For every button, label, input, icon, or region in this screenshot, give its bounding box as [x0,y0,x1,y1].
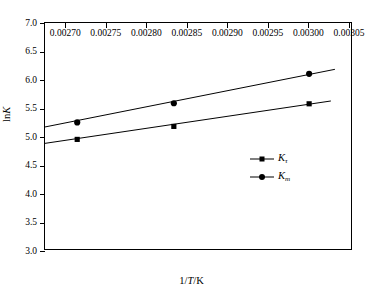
legend-label-subscript: τ [285,157,288,165]
x-axis-title: 1/T/K [0,276,383,287]
legend-line-sample [250,154,274,164]
legend-label-base: K [278,170,285,181]
legend-item[interactable]: Kτ [216,150,304,168]
y-tick-label: 3.5 [25,218,37,228]
legend-line-sample [250,172,274,182]
y-tick-label: 5.5 [25,104,37,114]
y-tick-label: 3.0 [25,247,37,257]
legend-marker-circle-icon [259,174,265,180]
x-axis-title-suffix: /K [193,275,204,286]
chart-root: 3.03.54.04.55.05.56.06.57.0 0.002700.002… [0,0,383,305]
fit-line [45,69,335,127]
y-tick-mark: 3.0 [40,251,45,252]
legend-label-subscript: m [285,175,290,183]
plot-area: 3.03.54.04.55.05.56.06.57.0 0.002700.002… [44,22,352,250]
data-layer [45,23,351,249]
fit-line [45,101,331,143]
legend-label: Km [278,171,304,183]
y-tick-label: 6.5 [25,47,37,57]
data-point-circle [171,100,177,106]
y-axis-title-variable: K [1,107,12,114]
y-axis-title-prefix: ln [1,114,12,122]
data-point-circle [74,119,80,125]
legend: KτKm [216,150,304,186]
y-tick-label: 7.0 [25,19,37,29]
legend-label-base: K [278,152,285,163]
legend-label: Kτ [278,153,304,165]
data-point-square [171,124,176,129]
data-point-circle [306,71,312,77]
legend-marker-square-icon [260,157,265,162]
y-tick-label: 6.0 [25,76,37,86]
legend-item[interactable]: Km [216,168,304,186]
data-point-square [307,101,312,106]
y-tick-label: 4.0 [25,190,37,200]
data-point-square [75,137,80,142]
y-tick-label: 5.0 [25,133,37,143]
y-tick-label: 4.5 [25,161,37,171]
y-axis-title: lnK [2,107,13,122]
